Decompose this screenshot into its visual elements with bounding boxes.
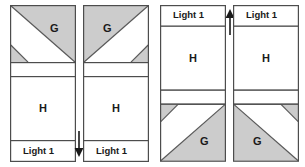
- panel-2-light-strip: [84, 141, 149, 162]
- panel-1: G H Light 1: [10, 5, 76, 162]
- panel-1-spacer-strip: [11, 63, 76, 77]
- panel-2-graphic: [83, 5, 149, 162]
- panel-4-graphic: [233, 5, 299, 162]
- panel-3: Light 1 H G: [160, 5, 226, 162]
- panel-3-h-square: [161, 26, 226, 90]
- panel-4-light-strip: [234, 6, 299, 27]
- panel-4-spacer-strip: [234, 90, 299, 104]
- panel-3-spacer-strip: [161, 90, 226, 104]
- panel-3-light-strip: [161, 6, 226, 27]
- panel-4: Light 1 H G: [233, 5, 299, 162]
- panel-2-spacer-strip: [84, 63, 149, 77]
- panel-1-graphic: [10, 5, 76, 162]
- panel-1-light-strip: [11, 141, 76, 162]
- panel-2: G H Light 1: [83, 5, 149, 162]
- panel-2-h-square: [84, 77, 149, 141]
- diagram-canvas: G H Light 1 G H Li: [0, 0, 305, 167]
- panel-1-h-square: [11, 77, 76, 141]
- panel-4-h-square: [234, 26, 299, 90]
- panel-3-graphic: [160, 5, 226, 162]
